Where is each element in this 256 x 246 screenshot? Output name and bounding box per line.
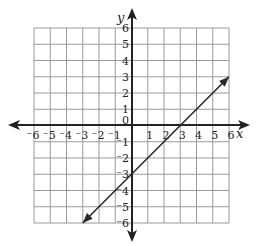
x-tick-label: 5 — [211, 129, 218, 142]
x-tick-label: ⁻3 — [75, 129, 88, 142]
x-tick-label: ⁻2 — [92, 129, 105, 142]
origin-label: 0 — [122, 114, 129, 127]
series-line — [83, 77, 229, 223]
x-tick-label: ⁻6 — [27, 129, 40, 142]
coordinate-plane-chart: ⁻6⁻5⁻4⁻3⁻2⁻11234566543210⁻1⁻2⁻3⁻4⁻5⁻6 x … — [0, 0, 256, 246]
x-tick-label: 6 — [228, 129, 235, 142]
x-tick-label: ⁻5 — [43, 129, 56, 142]
y-tick-label: ⁻1 — [116, 136, 129, 149]
y-axis-label: y — [116, 10, 125, 25]
x-tick-label: 4 — [195, 129, 202, 142]
y-tick-label: ⁻2 — [116, 152, 129, 165]
y-tick-label: 3 — [122, 71, 129, 84]
x-tick-label: 3 — [179, 129, 186, 142]
y-tick-label: 2 — [122, 87, 129, 100]
x-tick-label: ⁻4 — [59, 129, 72, 142]
y-tick-label: 5 — [122, 38, 129, 51]
y-tick-label: ⁻4 — [116, 185, 129, 198]
plot-series — [83, 77, 229, 223]
x-tick-label: 1 — [146, 129, 153, 142]
y-tick-label: ⁻5 — [116, 201, 129, 214]
y-tick-label: ⁻6 — [116, 217, 129, 230]
x-axis-label: x — [236, 126, 244, 141]
y-tick-label: 4 — [122, 55, 129, 68]
